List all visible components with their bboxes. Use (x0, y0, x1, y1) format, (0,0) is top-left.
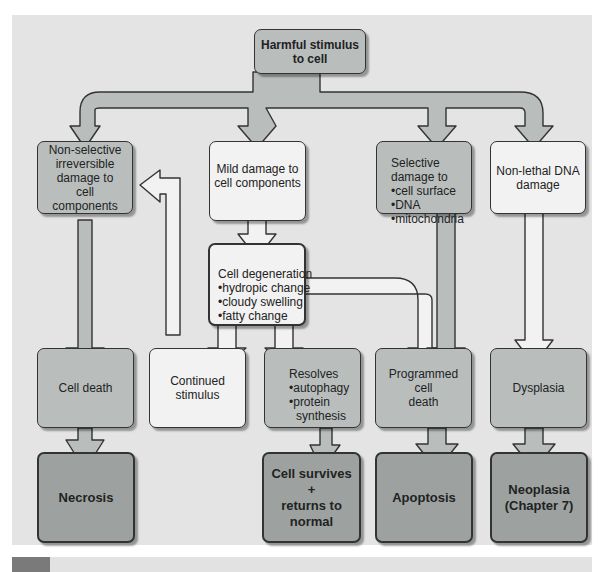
node-text: cell components (214, 176, 301, 190)
node-text: Cell degeneration (218, 267, 304, 281)
node-neoplasia: Neoplasia(Chapter 7) (490, 452, 588, 543)
node-text: Selective (391, 156, 471, 170)
footer-bar (12, 557, 592, 572)
node-text: + (271, 482, 351, 498)
list-item: •cloudy swelling (218, 295, 304, 309)
list-item: •DNA (391, 198, 471, 212)
node-cell-death: Cell death (37, 348, 134, 428)
node-text: normal (271, 514, 351, 530)
branch-arrow-top (70, 72, 553, 148)
node-text: Non-selective (42, 143, 128, 157)
node-text: death (380, 395, 467, 409)
node-mild-damage: Mild damage tocell components (209, 141, 306, 221)
node-text: damage to (391, 170, 471, 184)
node-text: returns to (271, 498, 351, 514)
node-text: (Chapter 7) (505, 498, 574, 514)
node-text: Continued (170, 374, 225, 388)
node-apoptosis: Apoptosis (375, 452, 473, 543)
node-text: Apoptosis (392, 490, 456, 506)
list-item: •hydropic change (218, 281, 304, 295)
node-necrosis: Necrosis (37, 452, 135, 543)
node-programmed-cell-death: Programmed celldeath (375, 348, 472, 428)
node-text: damage (496, 178, 579, 192)
arrow-nonselective-to-celldeath (66, 220, 104, 365)
node-text: irreversible (42, 157, 128, 171)
node-text: damage to (42, 171, 128, 185)
list-item: synthesis (289, 409, 360, 423)
node-text: Cell survives (271, 466, 351, 482)
node-text: to cell (261, 52, 359, 66)
node-non-selective-damage: Non-selectiveirreversibledamage tocell c… (37, 141, 133, 214)
node-text: Mild damage to (214, 162, 301, 176)
node-non-lethal-dna: Non-lethal DNAdamage (490, 141, 586, 214)
list-item: •mitochondria (391, 212, 471, 226)
arrow-dna-to-dysplasia (515, 213, 553, 365)
node-text: Non-lethal DNA (496, 164, 579, 178)
node-text: cell components (42, 185, 128, 213)
node-text: stimulus (170, 388, 225, 402)
node-text: Neoplasia (505, 482, 574, 498)
node-text: Dysplasia (512, 381, 564, 395)
node-cell-degeneration: Cell degeneration •hydropic change •clou… (208, 243, 306, 326)
node-text: Programmed cell (380, 367, 467, 395)
list-item: •autophagy (289, 381, 360, 395)
node-text: Necrosis (59, 490, 114, 506)
arrow-continued-loop (140, 170, 180, 335)
node-harmful-stimulus: Harmful stimulusto cell (254, 29, 366, 74)
node-selective-damage: Selective damage to •cell surface •DNA •… (376, 141, 472, 214)
node-dysplasia: Dysplasia (490, 348, 587, 428)
node-text: Harmful stimulus (261, 38, 359, 52)
node-resolves: Resolves •autophagy •protein synthesis (264, 348, 361, 428)
list-item: •cell surface (391, 184, 471, 198)
list-item: •protein (289, 395, 360, 409)
list-item: •fatty change (218, 309, 304, 323)
node-cell-survives: Cell survives+returns tonormal (262, 452, 361, 543)
node-continued-stimulus: Continuedstimulus (149, 348, 246, 428)
node-text: Cell death (58, 381, 112, 395)
node-text: Resolves (289, 367, 360, 381)
footer-accent (12, 557, 50, 572)
